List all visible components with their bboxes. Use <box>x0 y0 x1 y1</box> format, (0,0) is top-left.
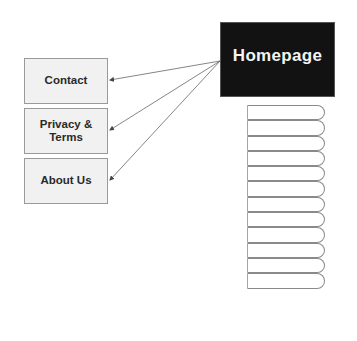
tab-item <box>247 197 325 212</box>
about-us-node: About Us <box>24 158 108 204</box>
tab-item <box>247 227 325 242</box>
tab-item <box>247 212 325 227</box>
tab-item <box>247 120 325 135</box>
tab-item <box>247 258 325 273</box>
contact-label: Contact <box>45 74 88 88</box>
tab-item <box>247 273 325 288</box>
tab-item <box>247 181 325 196</box>
tab-item <box>247 136 325 151</box>
privacy-terms-node: Privacy & Terms <box>24 108 108 154</box>
contact-node: Contact <box>24 58 108 104</box>
tab-item <box>247 243 325 258</box>
edge-homepage-about <box>110 61 220 180</box>
about-us-label: About Us <box>40 174 91 188</box>
tab-item <box>247 166 325 181</box>
tab-item <box>247 151 325 166</box>
tab-stack <box>247 105 326 289</box>
edge-homepage-contact <box>110 61 220 80</box>
homepage-node: Homepage <box>220 22 335 97</box>
homepage-label: Homepage <box>233 46 322 66</box>
privacy-terms-label: Privacy & Terms <box>36 118 96 145</box>
edge-homepage-privacy <box>110 61 220 130</box>
tab-item <box>247 105 325 120</box>
sitemap-diagram: Homepage Contact Privacy & Terms About U… <box>0 0 357 341</box>
